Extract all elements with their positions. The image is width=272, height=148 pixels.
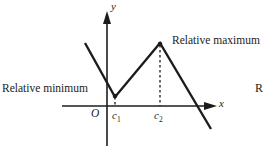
local-maximum-point <box>158 42 163 47</box>
tick-label-c1: c1 <box>112 110 121 124</box>
tick-label-c2-subscript: 2 <box>159 115 163 124</box>
graph-canvas <box>0 0 272 148</box>
tick-label-c1-subscript: 1 <box>117 115 121 124</box>
relative-minimum-label: Relative minimum <box>2 83 88 95</box>
y-axis-label: y <box>111 1 116 12</box>
relative-extrema-figure: Relative minimum Relative maximum y x O … <box>0 0 272 148</box>
function-curve <box>85 43 211 129</box>
y-axis-arrowhead <box>103 11 111 24</box>
local-minimum-point <box>113 94 118 99</box>
x-axis-arrowhead <box>204 102 217 110</box>
edge-text-fragment: R <box>255 82 263 94</box>
tick-label-c2: c2 <box>154 110 163 124</box>
origin-label: O <box>91 108 99 120</box>
relative-maximum-label: Relative maximum <box>172 35 260 47</box>
x-axis-label: x <box>219 98 224 109</box>
